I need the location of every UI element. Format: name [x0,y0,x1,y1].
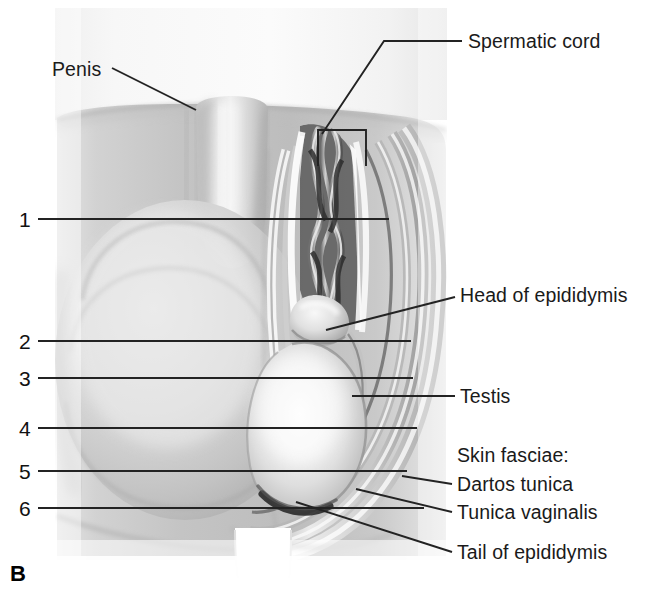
label-skin-fasciae: Skin fasciae: [457,446,569,466]
number-label-6: 6 [19,498,31,519]
leader-line-dartos [402,476,452,484]
label-tail-of-epididymis: Tail of epididymis [457,543,607,563]
number-label-2: 2 [19,331,31,352]
label-tunica-vaginalis: Tunica vaginalis [457,503,598,523]
anatomy-figure: Penis Spermatic cord Head of epididymis … [0,0,656,595]
number-label-3: 3 [19,368,31,389]
label-dartos-tunica: Dartos tunica [457,475,573,495]
label-spermatic-cord: Spermatic cord [468,32,601,52]
leader-line-spermatic-cord [322,41,462,134]
panel-letter-b: B [10,563,26,585]
leader-line-head-epididymis [326,297,455,330]
label-testis: Testis [460,387,510,407]
leader-line-tail-epididymis [296,502,452,552]
number-label-5: 5 [19,461,31,482]
number-label-4: 4 [19,418,31,439]
label-penis: Penis [52,60,101,80]
number-label-1: 1 [19,209,31,230]
label-head-of-epididymis: Head of epididymis [460,286,628,306]
leader-line-penis [112,68,196,110]
spermatic-cord-bracket [318,130,366,166]
